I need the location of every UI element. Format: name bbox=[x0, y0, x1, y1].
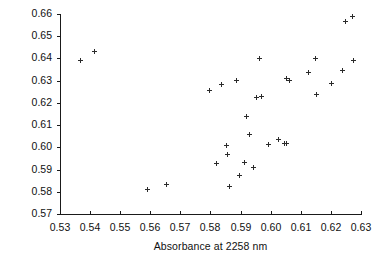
x-axis-tick bbox=[150, 211, 151, 215]
data-point bbox=[276, 137, 281, 142]
y-tick-label: 0.62 bbox=[18, 97, 52, 108]
y-tick-label: 0.64 bbox=[18, 52, 52, 63]
data-point bbox=[164, 182, 169, 187]
y-tick-label: 0.61 bbox=[18, 119, 52, 130]
y-axis-tick bbox=[57, 14, 61, 15]
data-point bbox=[254, 95, 259, 100]
y-tick-label: 0.63 bbox=[18, 75, 52, 86]
data-point bbox=[207, 88, 212, 93]
data-point bbox=[219, 82, 224, 87]
y-tick-label: 0.66 bbox=[18, 8, 52, 19]
x-axis-tick bbox=[180, 211, 181, 215]
data-point bbox=[259, 94, 264, 99]
data-point bbox=[306, 70, 311, 75]
data-point bbox=[237, 173, 242, 178]
data-point bbox=[224, 143, 229, 148]
x-axis-line bbox=[60, 214, 362, 215]
y-axis-tick bbox=[57, 58, 61, 59]
x-axis-tick bbox=[90, 211, 91, 215]
y-axis-tick bbox=[57, 36, 61, 37]
x-axis-tick bbox=[210, 211, 211, 215]
data-point bbox=[78, 58, 83, 63]
data-point bbox=[329, 81, 334, 86]
data-point bbox=[284, 141, 289, 146]
data-point bbox=[242, 160, 247, 165]
y-tick-label: 0.59 bbox=[18, 164, 52, 175]
data-point bbox=[227, 184, 232, 189]
y-axis-tick bbox=[57, 170, 61, 171]
data-point bbox=[257, 56, 262, 61]
scatter-plot-figure: Absorbance at 2314 nm Absorbance at 2258… bbox=[0, 0, 383, 266]
data-point bbox=[244, 114, 249, 119]
x-axis-tick bbox=[331, 211, 332, 215]
data-point bbox=[282, 141, 287, 146]
data-point bbox=[225, 152, 230, 157]
x-tick-label: 0.63 bbox=[341, 222, 381, 233]
y-tick-label: 0.60 bbox=[18, 141, 52, 152]
data-point bbox=[343, 19, 348, 24]
data-point bbox=[247, 132, 252, 137]
x-axis-tick bbox=[60, 211, 61, 215]
y-tick-label: 0.58 bbox=[18, 186, 52, 197]
data-point bbox=[340, 68, 345, 73]
y-tick-label: 0.65 bbox=[18, 30, 52, 41]
data-point bbox=[92, 49, 97, 54]
data-point bbox=[284, 76, 289, 81]
data-point bbox=[313, 56, 318, 61]
y-tick-label: 0.57 bbox=[18, 208, 52, 219]
x-axis-tick bbox=[241, 211, 242, 215]
x-axis-tick bbox=[271, 211, 272, 215]
x-axis-tick bbox=[120, 211, 121, 215]
y-axis-tick bbox=[57, 147, 61, 148]
x-axis-label: Absorbance at 2258 nm bbox=[60, 240, 361, 252]
y-axis-tick bbox=[57, 81, 61, 82]
x-axis-tick bbox=[301, 211, 302, 215]
data-point bbox=[350, 14, 355, 19]
data-point bbox=[266, 142, 271, 147]
data-point bbox=[214, 161, 219, 166]
data-point bbox=[314, 92, 319, 97]
y-axis-tick bbox=[57, 125, 61, 126]
y-axis-tick bbox=[57, 192, 61, 193]
x-axis-tick bbox=[361, 211, 362, 215]
y-axis-tick bbox=[57, 103, 61, 104]
data-point bbox=[234, 78, 239, 83]
data-point bbox=[145, 187, 150, 192]
data-point bbox=[287, 78, 292, 83]
y-axis-line bbox=[60, 14, 61, 215]
data-point bbox=[351, 58, 356, 63]
data-point bbox=[251, 165, 256, 170]
